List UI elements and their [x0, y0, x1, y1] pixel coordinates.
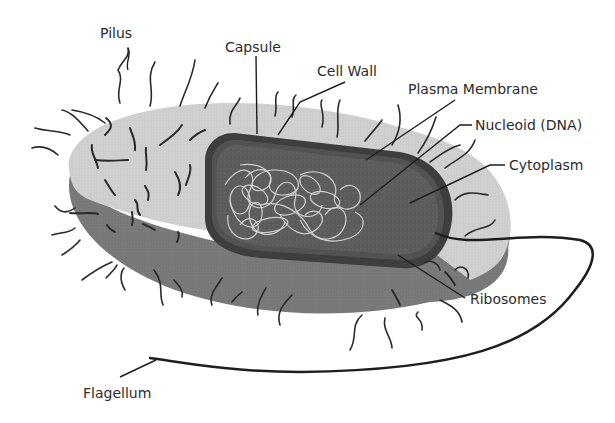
label-plasma-membrane: Plasma Membrane — [408, 81, 538, 97]
bacterial-cell-diagram: Pilus Capsule Cell Wall Plasma Membrane … — [0, 0, 615, 423]
label-cell-wall: Cell Wall — [317, 63, 377, 79]
leader-flagellum — [120, 360, 156, 377]
leader-capsule — [256, 56, 257, 134]
label-nucleoid: Nucleoid (DNA) — [475, 117, 582, 133]
label-pilus: Pilus — [100, 25, 132, 41]
label-ribosomes: Ribosomes — [470, 291, 546, 307]
label-flagellum: Flagellum — [83, 385, 151, 401]
label-capsule: Capsule — [225, 39, 281, 55]
label-cytoplasm: Cytoplasm — [509, 157, 583, 173]
